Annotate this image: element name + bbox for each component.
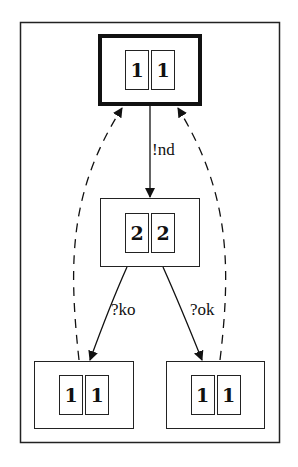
- state-cell: 1: [191, 375, 215, 415]
- state-cell: 1: [217, 375, 241, 415]
- state-cell: 2: [151, 213, 175, 253]
- state-cell: 1: [85, 375, 109, 415]
- edge-label-ok: ?ok: [190, 300, 215, 320]
- state-node-middle[interactable]: 2 2: [100, 198, 200, 267]
- state-cell: 1: [151, 50, 175, 90]
- diagram-canvas: 1 1 2 2 1 1 1 1 !nd ?ko ?ok: [0, 0, 298, 467]
- edge-label-nd: !nd: [152, 140, 175, 160]
- state-cell: 1: [125, 50, 149, 90]
- state-node-initial[interactable]: 1 1: [98, 34, 202, 106]
- state-node-bottom-left[interactable]: 1 1: [34, 361, 134, 429]
- state-node-bottom-right[interactable]: 1 1: [166, 361, 265, 429]
- state-cell: 1: [59, 375, 83, 415]
- state-cell: 2: [125, 213, 149, 253]
- edge-label-ko: ?ko: [111, 300, 136, 320]
